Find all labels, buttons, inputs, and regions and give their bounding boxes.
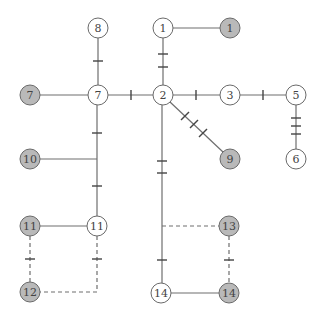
node-white-3: 3	[220, 85, 240, 105]
node-label: 6	[293, 153, 300, 166]
node-white-6: 6	[286, 149, 306, 169]
edge-w11-g12	[40, 236, 97, 292]
node-white-8: 8	[88, 18, 108, 38]
node-gray-1: 1	[220, 18, 240, 38]
node-label: 14	[154, 287, 168, 300]
node-white-1: 1	[153, 18, 173, 38]
node-gray-13: 13	[219, 216, 239, 236]
node-label: 9	[227, 153, 234, 166]
node-label: 5	[293, 89, 300, 102]
node-gray-10: 10	[20, 149, 40, 169]
network-diagram: 118772351096111113121414	[0, 0, 318, 320]
node-label: 3	[227, 89, 234, 102]
node-gray-11: 11	[20, 216, 40, 236]
node-white-5: 5	[286, 85, 306, 105]
node-label: 7	[95, 89, 102, 102]
node-label: 12	[23, 286, 37, 299]
node-label: 11	[23, 220, 37, 233]
node-label: 7	[27, 89, 34, 102]
node-label: 2	[160, 89, 167, 102]
node-gray-7: 7	[20, 85, 40, 105]
node-label: 10	[23, 153, 37, 166]
node-white-14: 14	[151, 283, 171, 303]
edges	[25, 28, 301, 293]
node-white-11: 11	[87, 216, 107, 236]
edge-w2-g9	[170, 102, 223, 152]
node-label: 8	[95, 22, 102, 35]
node-label: 1	[227, 22, 234, 35]
node-label: 14	[222, 287, 236, 300]
node-white-7: 7	[88, 85, 108, 105]
node-gray-14: 14	[219, 283, 239, 303]
node-gray-9: 9	[220, 149, 240, 169]
node-label: 13	[222, 220, 236, 233]
node-label: 1	[160, 22, 167, 35]
node-white-2: 2	[153, 85, 173, 105]
node-label: 11	[90, 220, 104, 233]
node-gray-12: 12	[20, 282, 40, 302]
